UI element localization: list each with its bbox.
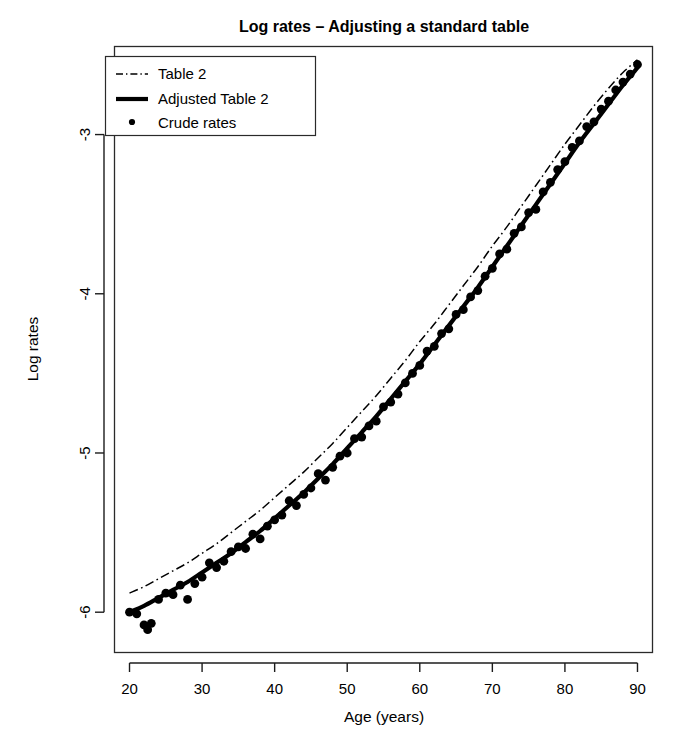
crude-rate-point <box>147 619 156 628</box>
x-tick-label: 90 <box>629 680 646 697</box>
x-axis-title: Age (years) <box>344 708 424 725</box>
y-tick-label: -6 <box>76 606 93 619</box>
y-tick-label: -5 <box>76 446 93 459</box>
x-tick-label: 80 <box>557 680 574 697</box>
legend-label-table-2: Table 2 <box>158 65 206 82</box>
crude-rate-point <box>183 595 192 604</box>
log-rates-chart: Log rates – Adjusting a standard table 2… <box>0 0 685 740</box>
x-tick-label: 60 <box>411 680 428 697</box>
y-axis-title: Log rates <box>24 316 41 381</box>
y-tick-label: -3 <box>76 128 93 141</box>
legend-key-dot-marker <box>129 119 135 125</box>
y-tick-label: -4 <box>76 287 93 300</box>
x-tick-label: 70 <box>484 680 501 697</box>
chart-legend: Table 2 Adjusted Table 2 Crude rates <box>106 57 316 136</box>
x-tick-label: 20 <box>121 680 138 697</box>
x-tick-label: 30 <box>194 680 211 697</box>
legend-label-adjusted-table-2: Adjusted Table 2 <box>158 90 269 107</box>
x-tick-label: 40 <box>266 680 283 697</box>
chart-title: Log rates – Adjusting a standard table <box>239 18 529 35</box>
x-tick-label: 50 <box>339 680 356 697</box>
chart-background <box>0 0 685 740</box>
legend-label-crude-rates: Crude rates <box>158 114 236 131</box>
